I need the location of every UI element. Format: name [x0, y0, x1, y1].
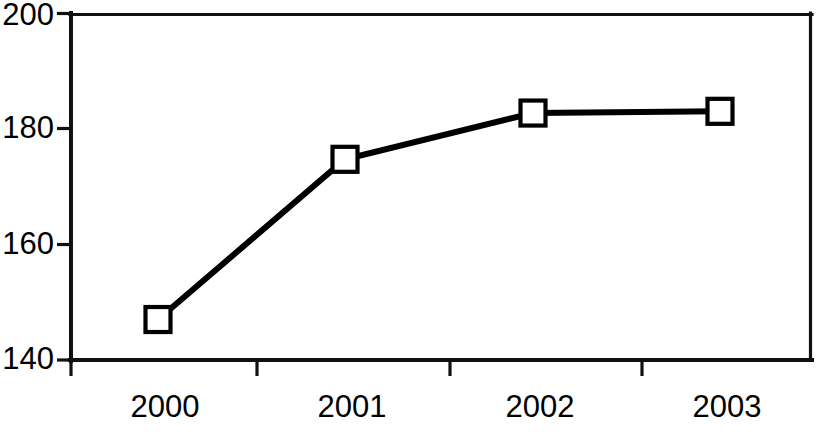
data-point-marker-2000: [146, 307, 171, 332]
x-tick-label-2002: 2002: [506, 389, 575, 424]
data-point-marker-2001: [333, 147, 358, 172]
x-tick-label-2003: 2003: [693, 389, 762, 424]
chart-canvas: 200 180 160 140 2000 2001 2002 2003: [0, 0, 818, 432]
x-tick-label-2001: 2001: [318, 389, 387, 424]
plot-area-background: [70, 13, 812, 360]
y-tick-label-140: 140: [2, 341, 54, 376]
y-tick-label-160: 160: [2, 226, 54, 261]
y-tick-label-180: 180: [2, 110, 54, 145]
x-tick-label-2000: 2000: [131, 389, 200, 424]
data-point-marker-2003: [708, 99, 733, 124]
data-point-marker-2002: [521, 101, 546, 126]
line-chart: 200 180 160 140 2000 2001 2002 2003: [0, 0, 818, 432]
y-tick-label-200: 200: [2, 0, 54, 32]
